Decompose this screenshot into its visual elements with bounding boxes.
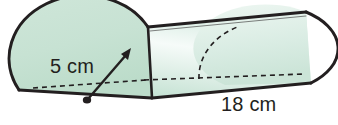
radius-label: 5 cm — [50, 55, 94, 78]
right-face-arc-outline — [306, 12, 338, 83]
length-label: 18 cm — [221, 93, 276, 116]
center-dot — [83, 96, 91, 103]
half-cylinder-figure: 5 cm 18 cm — [0, 0, 338, 125]
